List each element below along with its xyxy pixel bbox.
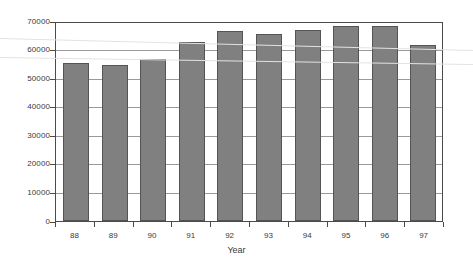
bar-chart: 70000 60000 50000 40000 30000 20000 1000… bbox=[0, 0, 473, 266]
x-tick-mark bbox=[171, 222, 172, 227]
x-tick-label-94: 94 bbox=[292, 231, 322, 240]
y-tick-label: 10000 bbox=[4, 189, 50, 197]
y-tick-label: 60000 bbox=[4, 46, 50, 54]
x-tick-label-96: 96 bbox=[370, 231, 400, 240]
x-tick-label-88: 88 bbox=[59, 231, 89, 240]
bar-90 bbox=[140, 59, 166, 221]
bar-91 bbox=[179, 42, 205, 221]
x-tick-mark bbox=[288, 222, 289, 227]
bar-89 bbox=[102, 65, 128, 221]
x-tick-mark bbox=[404, 222, 405, 227]
x-tick-label-97: 97 bbox=[409, 231, 439, 240]
y-tick-label: 50000 bbox=[4, 75, 50, 83]
y-tick-label: 30000 bbox=[4, 132, 50, 140]
x-tick-mark bbox=[94, 222, 95, 227]
bar-92 bbox=[217, 31, 243, 221]
bar-93 bbox=[256, 34, 282, 221]
bar-88 bbox=[63, 63, 89, 221]
y-tick-label: 40000 bbox=[4, 103, 50, 111]
x-tick-label-89: 89 bbox=[98, 231, 128, 240]
x-tick-mark bbox=[443, 222, 444, 227]
x-tick-label-91: 91 bbox=[176, 231, 206, 240]
bar-97 bbox=[410, 45, 436, 221]
y-tick-label: 20000 bbox=[4, 160, 50, 168]
x-tick-mark bbox=[327, 222, 328, 227]
x-tick-mark bbox=[55, 222, 56, 227]
y-tick-label: 70000 bbox=[4, 18, 50, 26]
x-tick-mark bbox=[365, 222, 366, 227]
plot-area bbox=[55, 22, 443, 222]
y-tick-label: 0 bbox=[4, 218, 50, 226]
x-tick-label-90: 90 bbox=[137, 231, 167, 240]
x-tick-mark bbox=[210, 222, 211, 227]
x-tick-label-93: 93 bbox=[253, 231, 283, 240]
bar-95 bbox=[333, 26, 359, 221]
x-tick-mark bbox=[249, 222, 250, 227]
x-tick-label-95: 95 bbox=[331, 231, 361, 240]
x-tick-mark bbox=[133, 222, 134, 227]
bar-96 bbox=[372, 26, 398, 221]
bar-94 bbox=[295, 30, 321, 221]
x-axis-title: Year bbox=[0, 245, 473, 255]
x-tick-label-92: 92 bbox=[215, 231, 245, 240]
